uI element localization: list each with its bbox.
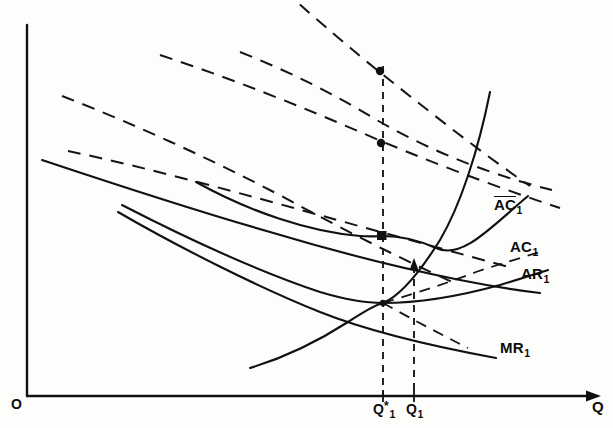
q1-main: Q	[406, 401, 417, 417]
x-tick-label-q1: Q1	[406, 401, 423, 417]
dashed-lower-curve	[62, 96, 452, 282]
mr-1-subscript: 1	[524, 347, 530, 359]
dashed-steep-curve	[283, 0, 530, 186]
x-axis-label: Q	[592, 398, 604, 415]
dashed-upper-curve-2	[160, 55, 560, 208]
curve-label-ac-bar-1: AC1	[494, 196, 522, 213]
ac-1-subscript: 1	[533, 246, 539, 258]
q1-star-main: Q	[373, 401, 384, 417]
x-tick-label-q1-star: Q*1	[373, 401, 395, 417]
ar-1-subscript: 1	[544, 273, 550, 285]
ac-1-text: AC	[510, 238, 532, 255]
dashed-upper-curve-3	[240, 52, 552, 190]
marker-upper-dot	[376, 67, 384, 75]
ac-bar-1-overbar-text: AC	[494, 196, 516, 213]
ac-bar-1-subscript: 1	[517, 204, 523, 216]
marker-tangency-square	[377, 231, 387, 240]
mr-1-text: MR	[500, 339, 524, 356]
curve-label-mr-1: MR1	[500, 339, 530, 356]
guide-q1-arrowhead-icon	[410, 258, 419, 270]
economics-figure: AC1 AC1 AR1 MR1 Q*1 Q1 Q O	[0, 0, 613, 428]
marker-convergence-dot	[380, 300, 386, 306]
origin-label: O	[11, 396, 22, 412]
dashed-branch-lower-right	[383, 303, 468, 348]
marker-middle-dot	[377, 139, 385, 147]
q1-subscript: 1	[418, 408, 424, 420]
q1-star-subscript: 1	[389, 408, 395, 420]
curve-label-ac-1: AC1	[510, 238, 538, 255]
curve-ac-bar-1	[196, 182, 528, 251]
curve-ar1	[42, 160, 540, 293]
ar-1-text: AR	[521, 265, 543, 282]
curve-label-ar-1: AR1	[521, 265, 549, 282]
